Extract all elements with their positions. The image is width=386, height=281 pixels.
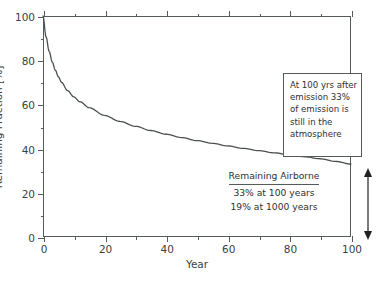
y-tick-label: 20: [22, 188, 35, 200]
y-tick-label: 0: [28, 232, 35, 244]
y-tick-label: 100: [15, 11, 35, 23]
y-tick-label: 80: [22, 55, 35, 67]
callout-line-3: of emission is: [290, 103, 356, 115]
x-tick-label: 40: [161, 243, 174, 255]
x-tick-major-top: [352, 11, 353, 17]
chart-figure: 020406080100020406080100 Remaining Fract…: [0, 0, 386, 281]
x-tick-label: 60: [222, 243, 235, 255]
x-tick-label: 100: [342, 243, 362, 255]
y-axis-title: Remaining Fraction [%]: [0, 66, 4, 189]
remaining-airborne-block: Remaining Airborne 33% at 100 years 19% …: [214, 169, 334, 213]
x-tick-major: [352, 236, 353, 242]
remaining-airborne-line-1: 33% at 100 years: [214, 186, 334, 199]
x-tick-label: 80: [284, 243, 297, 255]
annotation-callout-box: At 100 yrs after emission 33% of emissio…: [283, 73, 362, 157]
y-tick-label: 40: [22, 144, 35, 156]
double-headed-arrow-icon: [361, 168, 375, 240]
callout-line-5: atmosphere: [290, 128, 356, 140]
remaining-airborne-title: Remaining Airborne: [229, 169, 320, 185]
x-tick-label: 20: [99, 243, 112, 255]
x-axis-title: Year: [186, 258, 208, 270]
y-tick-label: 60: [22, 99, 35, 111]
x-tick-label: 0: [41, 243, 48, 255]
callout-line-2: emission 33%: [290, 91, 356, 103]
remaining-airborne-line-2: 19% at 1000 years: [214, 200, 334, 213]
callout-line-4: still in the: [290, 116, 356, 128]
callout-line-1: At 100 yrs after: [290, 79, 356, 91]
